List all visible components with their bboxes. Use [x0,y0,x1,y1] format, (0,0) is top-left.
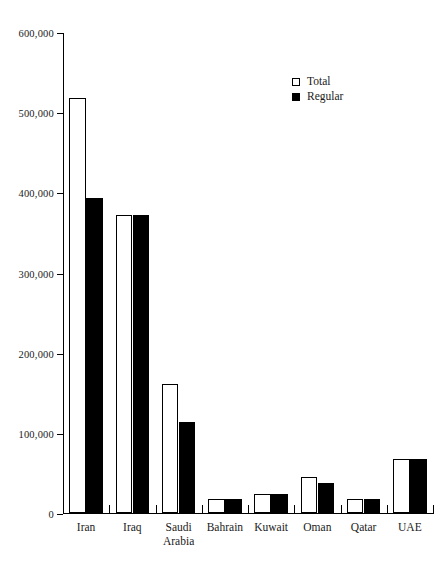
bar-uae-total [393,459,410,514]
bar-oman-total [301,477,318,513]
x-tick [294,505,295,514]
y-tick [57,354,63,355]
y-axis-line [63,33,64,514]
bar-iran-total [69,98,86,513]
y-tick-label: 300,000 [18,268,54,279]
y-tick [57,514,63,515]
bar-bahrain-total [208,499,225,513]
y-tick-label: 400,000 [18,188,54,199]
y-tick [57,33,63,34]
x-tick [109,505,110,514]
y-tick-label: 200,000 [18,348,54,359]
x-label-bahrain: Bahrain [202,521,248,535]
bar-kuwait-total [254,494,271,513]
bar-iraq-regular [133,215,150,513]
x-label-oman: Oman [294,521,340,535]
x-label-uae: UAE [387,521,433,535]
bar-kuwait-regular [271,494,288,513]
bar-bahrain-regular [225,499,242,513]
x-tick [387,505,388,514]
y-tick-label: 0 [49,509,54,520]
bar-saudi-arabia-regular [179,422,196,513]
bar-uae-regular [410,459,427,514]
x-tick [341,505,342,514]
x-label-qatar: Qatar [341,521,387,535]
legend-item-regular: Regular [292,89,343,104]
bar-qatar-regular [364,499,381,513]
legend-label-regular: Regular [307,89,343,104]
bar-iraq-total [116,215,133,513]
x-label-iran: Iran [63,521,109,535]
x-label-saudi-arabia: Saudi Arabia [156,521,202,548]
y-tick [57,193,63,194]
bar-saudi-arabia-total [162,384,179,513]
legend-swatch-regular-icon [292,93,300,101]
plot-area: 0100,000200,000300,000400,000500,000600,… [63,33,433,514]
y-tick-label: 500,000 [18,108,54,119]
y-tick-label: 100,000 [18,428,54,439]
legend: Total Regular [292,74,343,104]
x-label-iraq: Iraq [109,521,155,535]
x-tick [156,505,157,514]
bar-qatar-total [347,499,364,513]
y-tick [57,274,63,275]
bar-chart: 0100,000200,000300,000400,000500,000600,… [0,0,440,586]
legend-item-total: Total [292,74,343,89]
bar-iran-regular [86,198,103,513]
y-tick [57,113,63,114]
legend-swatch-total-icon [292,78,300,86]
x-tick [202,505,203,514]
x-tick [248,505,249,514]
bar-oman-regular [318,483,335,513]
legend-label-total: Total [307,74,330,89]
x-tick [433,505,434,514]
y-tick-label: 600,000 [18,28,54,39]
x-label-kuwait: Kuwait [248,521,294,535]
y-tick [57,434,63,435]
x-tick-origin [63,505,64,514]
